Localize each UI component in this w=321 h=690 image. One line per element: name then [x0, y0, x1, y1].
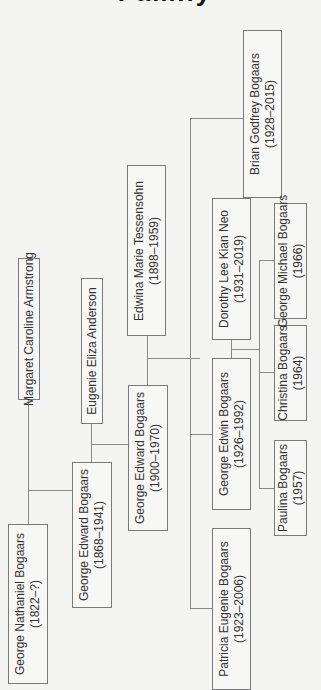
connector — [91, 424, 92, 462]
person-name: Brian Godfrey Bogaars — [248, 53, 263, 175]
connector — [259, 260, 260, 488]
connector — [28, 490, 72, 491]
connector — [28, 400, 29, 524]
person-box-eugenie-eliza[interactable]: Eugenie Eliza Anderson — [81, 278, 103, 424]
person-dates: (1868–1941) — [92, 469, 107, 601]
connector — [259, 260, 274, 261]
person-name: Margaret Caroline Armstrong — [22, 252, 37, 406]
person-dates: (1822–?) — [28, 533, 43, 675]
person-box-george-edward-1868[interactable]: George Edward Bogaars(1868–1941) — [72, 462, 112, 608]
person-name: Paulina Bogaars — [276, 444, 291, 532]
person-name: Patricia Eugenie Bogaars — [217, 541, 232, 676]
person-dates: (1900–1970) — [148, 392, 163, 524]
connector — [231, 349, 259, 350]
person-dates: (1957) — [291, 444, 306, 532]
person-box-margaret-caroline[interactable]: Margaret Caroline Armstrong — [18, 258, 40, 400]
person-box-brian-godfrey[interactable]: Brian Godfrey Bogaars(1928–2015) — [243, 30, 282, 198]
connector — [190, 118, 243, 119]
person-name: George Edward Bogaars — [77, 469, 92, 601]
person-dates: (1966) — [291, 195, 306, 328]
person-name: George Edward Bogaars — [133, 392, 148, 524]
connector — [190, 118, 191, 608]
person-box-george-edward-1900[interactable]: George Edward Bogaars(1900–1970) — [128, 385, 168, 531]
connector — [147, 358, 200, 359]
person-box-george-edwin[interactable]: George Edwin Bogaars(1926–1992) — [212, 358, 251, 510]
connector — [190, 434, 212, 435]
person-box-george-nathaniel[interactable]: George Nathaniel Bogaars(1822–?) — [8, 524, 48, 684]
person-name: George Edwin Bogaars — [217, 372, 232, 496]
person-name: Edwina Marie Tessensohn — [132, 181, 147, 321]
person-name: George Michael Bogaars — [276, 195, 291, 328]
connector — [91, 444, 128, 445]
person-box-paulina[interactable]: Paulina Bogaars(1957) — [274, 440, 307, 536]
person-dates: (1923–2006) — [232, 541, 247, 676]
person-box-dorothy-lee[interactable]: Dorothy Lee Kian Neo(1931–2019) — [212, 198, 251, 340]
person-box-christina[interactable]: Christina Bogaars(1964) — [274, 325, 307, 421]
person-dates: (1898–1959) — [147, 181, 162, 321]
connector — [259, 488, 274, 489]
person-name: Eugenie Eliza Anderson — [85, 287, 100, 414]
person-box-george-michael[interactable]: George Michael Bogaars(1966) — [274, 203, 307, 319]
person-dates: (1931–2019) — [232, 210, 247, 328]
person-name: George Nathaniel Bogaars — [13, 533, 28, 675]
person-name: Christina Bogaars — [276, 325, 291, 420]
person-name: Dorothy Lee Kian Neo — [217, 210, 232, 328]
person-dates: (1928–2015) — [263, 53, 278, 175]
connector — [190, 608, 212, 609]
person-dates: (1926–1992) — [232, 372, 247, 496]
page-title: Family Tree — [100, 0, 230, 6]
connector — [147, 336, 148, 385]
person-box-edwina-marie[interactable]: Edwina Marie Tessensohn(1898–1959) — [127, 165, 166, 336]
person-box-patricia-eugenie[interactable]: Patricia Eugenie Bogaars(1923–2006) — [212, 528, 251, 690]
connector — [259, 372, 274, 373]
person-dates: (1964) — [291, 325, 306, 420]
